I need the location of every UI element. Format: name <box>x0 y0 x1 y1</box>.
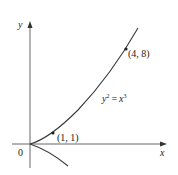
curve-lower-branch <box>30 144 68 166</box>
origin-label: 0 <box>18 147 23 158</box>
y-axis-arrow-icon <box>28 21 33 28</box>
x-axis-arrow-icon <box>160 142 167 147</box>
point-4-8-label: (4, 8) <box>128 48 150 60</box>
y-axis-label: y <box>17 19 23 30</box>
cusp-curve-figure: y x 0 (1, 1) (4, 8) y2=x3 <box>0 0 178 175</box>
point-1-1-marker <box>51 131 54 134</box>
x-axis-label: x <box>159 147 165 158</box>
equation-label: y2=x3 <box>101 93 127 104</box>
point-1-1-label: (1, 1) <box>57 132 79 144</box>
curve-upper-branch <box>30 28 138 144</box>
